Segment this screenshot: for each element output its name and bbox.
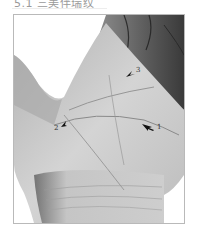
marker-label-2: 2: [54, 125, 58, 132]
section-heading: 5.1 三美伴瑞纹: [14, 0, 95, 6]
figure-frame: 3 1 2: [13, 14, 185, 224]
palm-photo: [14, 15, 184, 223]
marker-label-3: 3: [136, 67, 140, 74]
marker-label-1: 1: [157, 124, 161, 131]
heading-divider: [12, 8, 107, 9]
